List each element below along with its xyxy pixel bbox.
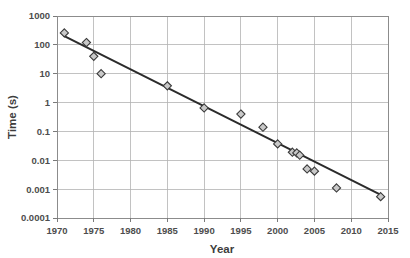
y-tick-label: 0.001 xyxy=(26,184,50,195)
x-tick-label: 1985 xyxy=(157,225,179,236)
x-tick-label: 1975 xyxy=(83,225,105,236)
y-tick-label: 0.1 xyxy=(37,126,51,137)
chart-background xyxy=(0,0,410,258)
y-tick-label: 10 xyxy=(39,68,50,79)
x-tick-label: 2015 xyxy=(377,225,399,236)
x-tick-label: 2010 xyxy=(341,225,362,236)
y-tick-label: 0.01 xyxy=(32,155,51,166)
x-tick-label: 2000 xyxy=(267,225,288,236)
x-tick-label: 1970 xyxy=(46,225,67,236)
x-axis-title: Year xyxy=(210,243,235,255)
x-tick-label: 1980 xyxy=(120,225,141,236)
x-tick-label: 2005 xyxy=(304,225,326,236)
time-vs-year-log-scatter-chart: 0.00010.0010.010.11101001000 19701975198… xyxy=(0,0,410,258)
y-axis-title: Time (s) xyxy=(6,95,18,139)
y-tick-label: 1000 xyxy=(29,10,50,21)
x-tick-label: 1995 xyxy=(230,225,252,236)
chart-container: 0.00010.0010.010.11101001000 19701975198… xyxy=(0,0,410,258)
x-tick-label: 1990 xyxy=(194,225,215,236)
y-tick-label: 100 xyxy=(34,39,50,50)
y-tick-label: 1 xyxy=(45,97,51,108)
y-tick-label: 0.0001 xyxy=(21,212,51,223)
